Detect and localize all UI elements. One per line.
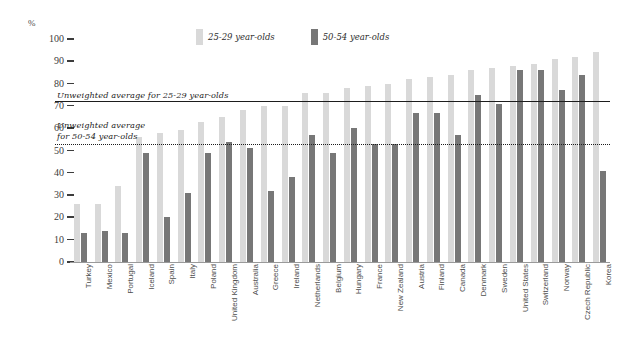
- x-axis-label: Ireland: [292, 264, 301, 358]
- reference-line-25-29: [55, 101, 610, 102]
- bar-dark: [538, 70, 544, 262]
- bar-light: [427, 77, 433, 262]
- bar-group: [506, 39, 527, 262]
- bar-dark: [392, 144, 398, 262]
- annotation-avg-25-29: Unweighted average for 25-29 year-olds: [57, 90, 228, 100]
- bar-light: [365, 86, 371, 262]
- y-axis-tick-label: 100: [49, 33, 64, 45]
- x-axis-label: Denmark: [479, 264, 488, 358]
- bar-dark: [81, 233, 87, 262]
- bar-light: [219, 117, 225, 262]
- x-axis-label: Belgium: [334, 264, 343, 358]
- bar-group: [215, 39, 236, 262]
- y-axis-tick-label: 90: [54, 55, 64, 67]
- chart-legend: 25-29 year-olds 50-54 year-olds: [196, 29, 389, 45]
- x-axis-labels: TurkeyMexicoPortugalIcelandSpainItalyPol…: [70, 264, 610, 360]
- bar-dark: [600, 171, 606, 262]
- x-axis-label: Turkey: [84, 264, 93, 358]
- bar-light: [323, 93, 329, 262]
- x-axis-label: New Zealand: [396, 264, 405, 358]
- bar-light: [178, 130, 184, 262]
- bar-dark: [289, 177, 295, 262]
- bar-group: [361, 39, 382, 262]
- bar-group: [444, 39, 465, 262]
- x-axis-label: Norway: [562, 264, 571, 358]
- bar-light: [240, 110, 246, 262]
- bar-light: [282, 106, 288, 262]
- bar-light: [572, 57, 578, 262]
- bar-dark: [434, 113, 440, 262]
- bar-group: [153, 39, 174, 262]
- bar-dark: [475, 95, 481, 262]
- y-axis-tick: 30: [0, 189, 64, 201]
- bar-dark: [372, 144, 378, 262]
- x-axis-label: Poland: [209, 264, 218, 358]
- bar-group: [568, 39, 589, 262]
- bar-chart: % 1009080706050403020100 25-29 year-olds…: [0, 0, 626, 361]
- y-axis-tick: 100: [0, 33, 64, 45]
- legend-label-50-54: 50-54 year-olds: [323, 32, 390, 42]
- bar-dark: [164, 217, 170, 262]
- bar-group: [402, 39, 423, 262]
- y-axis-tick: 40: [0, 167, 64, 179]
- bar-dark: [455, 135, 461, 262]
- bar-group: [174, 39, 195, 262]
- x-axis-label: Austria: [417, 264, 426, 358]
- bar-group: [278, 39, 299, 262]
- annotation-avg-50-54-line2: for 50-54 year-olds: [57, 131, 145, 142]
- x-axis-label: Italy: [188, 264, 197, 358]
- bar-light: [261, 106, 267, 262]
- x-axis-label: Canada: [458, 264, 467, 358]
- y-axis-tick-label: 80: [54, 78, 64, 90]
- y-axis-unit-label: %: [28, 18, 36, 28]
- legend-item-50-54: 50-54 year-olds: [311, 29, 390, 45]
- legend-label-25-29: 25-29 year-olds: [208, 32, 275, 42]
- x-axis-label: Portugal: [126, 264, 135, 358]
- y-axis-tick-label: 20: [54, 211, 64, 223]
- y-axis-tick: 60: [0, 122, 64, 134]
- bar-group: [382, 39, 403, 262]
- bar-group: [548, 39, 569, 262]
- bar-group: [236, 39, 257, 262]
- bar-light: [406, 79, 412, 262]
- bar-dark: [413, 113, 419, 262]
- legend-swatch-icon-dark: [311, 29, 318, 45]
- bar-group: [465, 39, 486, 262]
- bar-light: [74, 204, 80, 262]
- x-axis-label: Australia: [251, 264, 260, 358]
- bar-dark: [226, 142, 232, 262]
- y-axis-tick-label: 30: [54, 189, 64, 201]
- x-axis-label: Greece: [271, 264, 280, 358]
- y-axis-tick-label: 40: [54, 167, 64, 179]
- x-axis-label: France: [375, 264, 384, 358]
- bar-dark: [309, 135, 315, 262]
- bar-group: [70, 39, 91, 262]
- bar-light: [531, 64, 537, 262]
- x-axis-label: Finland: [437, 264, 446, 358]
- y-axis-tick: 10: [0, 234, 64, 246]
- bar-group: [589, 39, 610, 262]
- bar-dark: [496, 104, 502, 262]
- y-axis-tick: 50: [0, 145, 64, 157]
- bar-dark: [559, 90, 565, 262]
- bar-group: [423, 39, 444, 262]
- x-axis-label: Hungary: [354, 264, 363, 358]
- bar-group: [132, 39, 153, 262]
- legend-swatch-icon-light: [196, 29, 203, 45]
- bar-light: [489, 68, 495, 262]
- bar-light: [468, 70, 474, 262]
- bar-dark: [102, 231, 108, 262]
- bar-light: [198, 122, 204, 262]
- x-axis-label: Netherlands: [313, 264, 322, 358]
- x-axis-label: Switzerland: [541, 264, 550, 358]
- bar-group: [112, 39, 133, 262]
- bar-group: [319, 39, 340, 262]
- bar-light: [385, 84, 391, 262]
- bar-light: [344, 88, 350, 262]
- bar-dark: [351, 128, 357, 262]
- bar-dark: [517, 70, 523, 262]
- bar-group: [298, 39, 319, 262]
- x-axis-label: Korea: [604, 264, 613, 358]
- x-axis-baseline: [70, 262, 610, 263]
- bar-dark: [185, 193, 191, 262]
